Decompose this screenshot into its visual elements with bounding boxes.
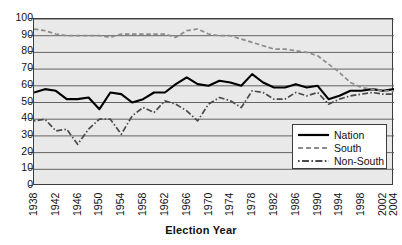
x-tick-label: 1966 bbox=[180, 186, 192, 216]
x-axis-title: Election Year bbox=[0, 224, 402, 236]
y-tick-label: 100 bbox=[5, 12, 33, 22]
x-tick-label: 1998 bbox=[354, 186, 366, 216]
x-tick-label: 1946 bbox=[71, 186, 83, 216]
x-tick-label: 1994 bbox=[332, 186, 344, 216]
chart-legend: Nation South Non-South bbox=[292, 124, 387, 169]
x-tick-label: 1970 bbox=[202, 186, 214, 216]
x-tick-label: 1962 bbox=[158, 186, 170, 216]
y-tick-label: 40 bbox=[5, 112, 33, 122]
y-tick-label: 20 bbox=[5, 146, 33, 156]
legend-swatch-dashed-icon bbox=[297, 142, 330, 154]
series-line-nation bbox=[34, 74, 394, 109]
legend-item-south: South bbox=[297, 141, 382, 154]
chart-container: 0102030405060708090100 19381942194619501… bbox=[0, 0, 402, 245]
y-axis: 0102030405060708090100 bbox=[0, 0, 33, 203]
y-tick-label: 30 bbox=[5, 129, 33, 139]
x-tick-label: 1954 bbox=[114, 186, 126, 216]
legend-item-nation: Nation bbox=[297, 128, 382, 141]
legend-swatch-dashdot-icon bbox=[297, 155, 330, 167]
x-tick-label: 1978 bbox=[245, 186, 257, 216]
x-tick-label: 1990 bbox=[311, 186, 323, 216]
x-tick-label: 1986 bbox=[289, 186, 301, 216]
legend-label-non-south: Non-South bbox=[334, 155, 384, 167]
legend-swatch-solid-icon bbox=[297, 129, 330, 141]
x-tick-label: 1958 bbox=[136, 186, 148, 216]
y-tick-label: 10 bbox=[5, 162, 33, 172]
y-tick-label: 90 bbox=[5, 29, 33, 39]
x-axis: 1938194219461950195419581962196619701974… bbox=[0, 186, 402, 226]
legend-label-south: South bbox=[334, 142, 361, 154]
y-tick-label: 50 bbox=[5, 96, 33, 106]
x-tick-label: 1982 bbox=[267, 186, 279, 216]
y-tick-label: 70 bbox=[5, 62, 33, 72]
y-tick-label: 60 bbox=[5, 79, 33, 89]
legend-item-non-south: Non-South bbox=[297, 154, 382, 167]
x-tick-label: 1942 bbox=[49, 186, 61, 216]
x-tick-label: 1938 bbox=[27, 186, 39, 216]
legend-label-nation: Nation bbox=[334, 129, 364, 141]
y-tick-label: 80 bbox=[5, 45, 33, 55]
x-tick-label: 2004 bbox=[387, 186, 399, 216]
series-line-south bbox=[34, 29, 394, 91]
x-tick-label: 1950 bbox=[92, 186, 104, 216]
x-tick-label: 1974 bbox=[223, 186, 235, 216]
